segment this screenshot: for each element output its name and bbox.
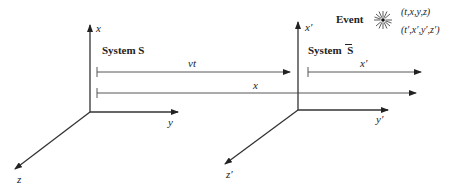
system-sbar-axes: x′ y′ z′ System S bbox=[225, 21, 388, 180]
sbar-z-axis-label: z′ bbox=[225, 168, 233, 180]
event-marker: Event (t,x,y,z) (t′,x′,y′,z′) bbox=[336, 6, 440, 36]
system-s-axes: x y z System S bbox=[15, 22, 178, 184]
displacement-arrows: vt x x′ bbox=[97, 57, 421, 98]
lorentz-frames-diagram: x y z System S x′ y′ z′ System S vt x bbox=[0, 0, 461, 184]
sbar-y-axis-label: y′ bbox=[375, 113, 384, 125]
s-x-axis-label: x bbox=[95, 22, 101, 34]
event-coords-sbar: (t′,x′,y′,z′) bbox=[401, 24, 440, 36]
s-z-axis-label: z bbox=[16, 173, 22, 184]
sbar-x-axis-label: x′ bbox=[304, 21, 313, 33]
system-sbar-title: System S bbox=[308, 44, 353, 56]
xprime-label: x′ bbox=[359, 57, 368, 69]
x-label: x bbox=[252, 79, 258, 91]
starburst-icon bbox=[374, 11, 392, 29]
system-s-title: System S bbox=[102, 44, 144, 56]
s-y-axis-label: y bbox=[167, 116, 173, 128]
sbar-z-axis bbox=[225, 110, 298, 164]
vt-label: vt bbox=[188, 57, 197, 69]
event-coords-s: (t,x,y,z) bbox=[401, 6, 431, 18]
s-z-axis bbox=[15, 112, 90, 169]
event-label: Event bbox=[336, 13, 364, 25]
